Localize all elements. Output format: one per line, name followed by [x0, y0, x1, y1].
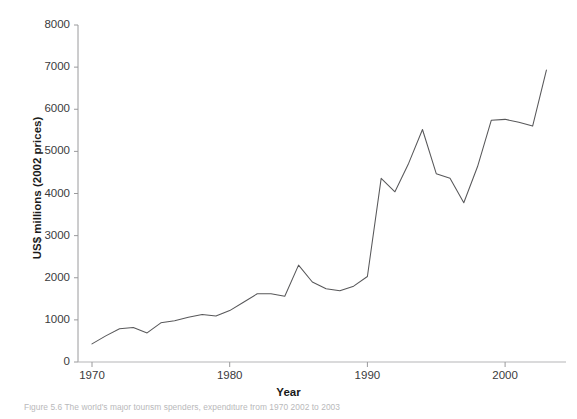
- x-tick-label: 2000: [475, 370, 535, 381]
- data-series-group: [92, 70, 546, 344]
- x-axis-ticks: [92, 362, 505, 367]
- axes-group: [78, 25, 566, 362]
- series-line-expenditure: [92, 70, 546, 344]
- x-tick-label: 1980: [200, 370, 260, 381]
- figure-caption-text: Figure 5.6 The world's major tourism spe…: [24, 404, 564, 412]
- y-axis-title: US$ millions (2002 prices): [31, 73, 43, 303]
- x-tick-label: 1970: [62, 370, 122, 381]
- plot-area: 010002000300040005000600070008000 197019…: [0, 0, 577, 419]
- x-axis-title: Year: [0, 386, 577, 398]
- y-axis-ticks: [74, 25, 78, 362]
- figure-container: 010002000300040005000600070008000 197019…: [0, 0, 577, 419]
- y-tick-label: 0: [26, 356, 70, 367]
- x-tick-label: 1990: [337, 370, 397, 381]
- line-chart-svg: [0, 0, 577, 419]
- y-tick-label: 7000: [26, 61, 70, 72]
- y-tick-label: 1000: [26, 314, 70, 325]
- figure-caption-clipped: Figure 5.6 The world's major tourism spe…: [24, 404, 564, 419]
- y-tick-label: 8000: [26, 19, 70, 30]
